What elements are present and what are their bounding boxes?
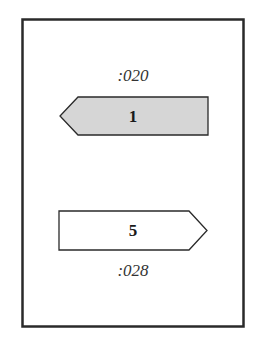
bottom-label: :028	[117, 261, 149, 280]
top-label: :020	[117, 66, 149, 85]
left-arrow-number: 1	[129, 107, 138, 126]
diagram-canvas: :020 1 5 :028	[0, 0, 260, 340]
right-arrow-number: 5	[129, 221, 138, 240]
